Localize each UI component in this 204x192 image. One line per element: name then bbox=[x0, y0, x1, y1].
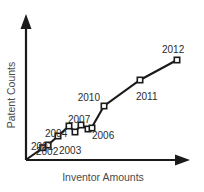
y-axis-arrowhead bbox=[21, 14, 32, 29]
point-label-2004: 2004 bbox=[45, 128, 68, 139]
point-label-2002: 2002 bbox=[36, 146, 59, 157]
point-label-2011: 2011 bbox=[136, 91, 158, 102]
y-axis bbox=[21, 14, 32, 160]
data-point-marker bbox=[101, 103, 106, 108]
point-label-2007: 2007 bbox=[68, 114, 91, 125]
point-label-2006: 2006 bbox=[92, 130, 115, 141]
point-label-2012: 2012 bbox=[162, 44, 185, 55]
y-axis-title: Patent Counts bbox=[5, 62, 17, 129]
data-point-marker bbox=[174, 57, 179, 62]
chart-canvas: 2001 2002 2003 2004 2006 2007 2010 2011 … bbox=[0, 0, 204, 192]
x-axis-title: Inventor Amounts bbox=[62, 171, 144, 183]
point-label-2003: 2003 bbox=[59, 145, 82, 156]
data-point-marker bbox=[72, 129, 77, 134]
point-label-2010: 2010 bbox=[78, 92, 101, 103]
x-axis-arrowhead bbox=[175, 155, 190, 166]
line-chart-figure: 2001 2002 2003 2004 2006 2007 2010 2011 … bbox=[0, 0, 204, 192]
data-point-marker bbox=[137, 77, 142, 82]
